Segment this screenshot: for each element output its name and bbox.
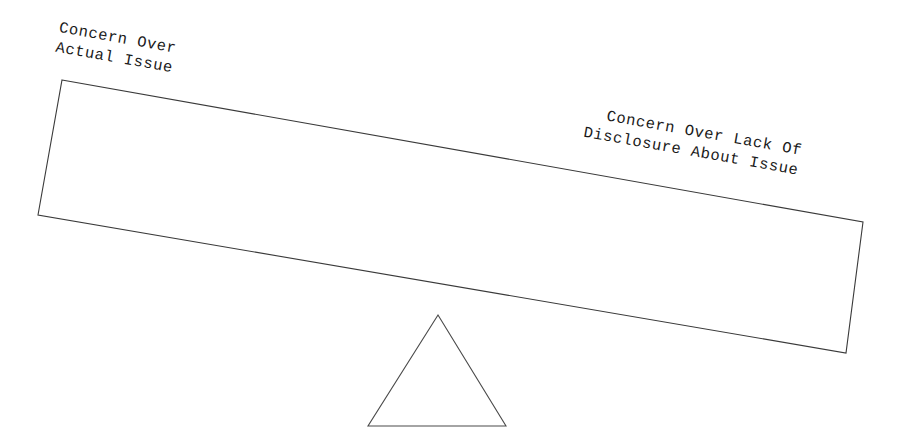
seesaw-diagram: Concern Over Actual Issue Concern Over L…: [0, 0, 907, 447]
triangle-fulcrum: [368, 315, 506, 426]
lever-beam: [38, 80, 863, 353]
